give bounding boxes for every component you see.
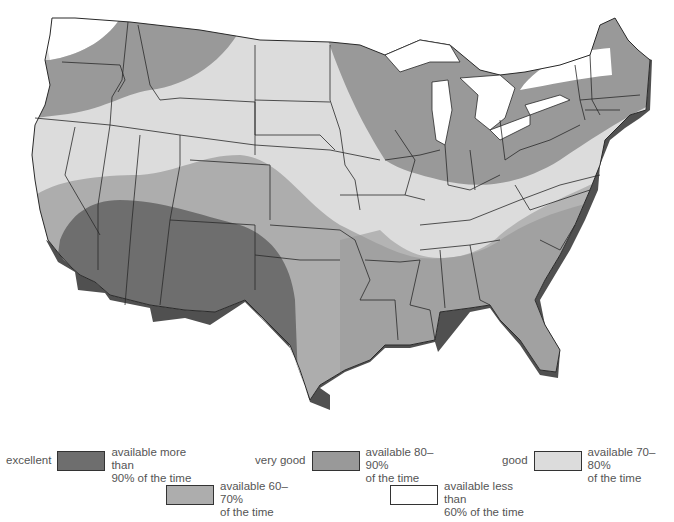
legend-swatch-excellent: [57, 451, 105, 471]
legend-swatch-60-70: [166, 485, 214, 505]
legend-rating: very good: [255, 454, 306, 466]
us-availability-map: [0, 0, 674, 430]
legend-rating: good: [502, 454, 528, 466]
legend-description: available 70–80% of the time: [588, 446, 674, 485]
legend-swatch-very-good: [312, 451, 360, 471]
legend-description: available 60–70% of the time: [220, 480, 310, 519]
legend-swatch-less-than-60: [390, 485, 438, 505]
legend-rating: excellent: [6, 454, 51, 466]
legend-description: available less than 60% of the time: [444, 480, 534, 519]
legend-swatch-good: [534, 451, 582, 471]
legend-item-60-70: available 60–70% of the time: [166, 480, 310, 519]
legend-item-less-than-60: available less than 60% of the time: [390, 480, 534, 519]
legend: excellent available more than 90% of the…: [0, 440, 674, 522]
